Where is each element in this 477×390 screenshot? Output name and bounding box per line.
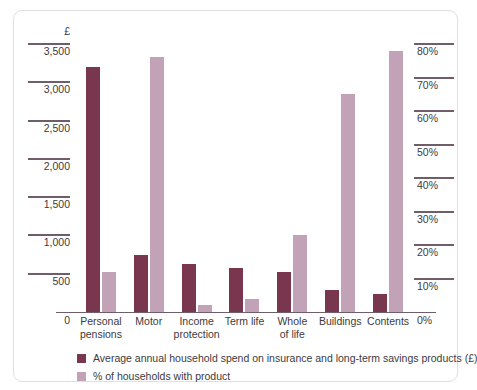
- bar-percent: [341, 94, 355, 312]
- left-axis-tick-label: 500: [28, 275, 70, 288]
- category-axis-labels: PersonalpensionsMotorIncomeprotectionTer…: [77, 315, 412, 349]
- bar-group: [173, 44, 221, 312]
- left-axis: 3,5003,0002,5002,0001,5001,000500: [28, 11, 74, 331]
- bar-spend: [86, 67, 100, 312]
- bar-spend: [182, 264, 196, 312]
- legend-item-percent: % of households with product: [77, 370, 467, 383]
- right-axis-tick-label: 60%: [417, 112, 438, 125]
- plot-area: [77, 44, 412, 312]
- left-axis-tick-label: 1,500: [28, 198, 70, 211]
- right-axis-tick-label: 10%: [417, 280, 438, 293]
- right-axis-tick-label: 80%: [417, 45, 438, 58]
- left-axis-tick-label-0: 0: [28, 314, 70, 326]
- legend-label-spend: Average annual household spend on insura…: [93, 352, 477, 365]
- bar-percent: [198, 305, 212, 312]
- bar-spend: [373, 294, 387, 312]
- right-axis-tick-label: 20%: [417, 246, 438, 259]
- legend-label-percent: % of households with product: [93, 370, 230, 383]
- right-axis-tick-label: 30%: [417, 213, 438, 226]
- chart-card: £ 3,5003,0002,5002,0001,5001,000500 0 80…: [13, 10, 458, 382]
- left-axis-tick-label: 3,000: [28, 83, 70, 96]
- legend-swatch-spend-icon: [77, 354, 86, 363]
- right-axis-tick-label: 50%: [417, 146, 438, 159]
- bar-percent: [245, 299, 259, 312]
- bar-percent: [293, 235, 307, 312]
- chart-legend: Average annual household spend on insura…: [77, 352, 467, 388]
- bar-spend: [134, 255, 148, 312]
- left-axis-tick-label: 1,000: [28, 236, 70, 249]
- bar-group: [316, 44, 364, 312]
- left-axis-tick-label: 2,500: [28, 122, 70, 135]
- right-axis-tick-label: 70%: [417, 79, 438, 92]
- category-label-line: of life: [260, 328, 324, 341]
- bar-spend: [325, 290, 339, 312]
- bar-group: [125, 44, 173, 312]
- bar-group: [364, 44, 412, 312]
- category-label-contents: Contents: [356, 315, 420, 328]
- legend-swatch-percent-icon: [77, 372, 86, 381]
- left-axis-tick-label: 2,000: [28, 160, 70, 173]
- category-label-line: protection: [165, 328, 229, 341]
- legend-item-spend: Average annual household spend on insura…: [77, 352, 467, 365]
- x-axis-baseline: [56, 312, 436, 313]
- category-label-line: pensions: [69, 328, 133, 341]
- right-axis: 80%70%60%50%40%30%20%10%: [414, 11, 474, 331]
- bar-percent: [389, 51, 403, 312]
- bar-spend: [229, 268, 243, 312]
- category-label-line: Contents: [356, 315, 420, 328]
- bar-group: [77, 44, 125, 312]
- bar-percent: [150, 57, 164, 312]
- bar-spend: [277, 272, 291, 312]
- bar-group: [221, 44, 269, 312]
- bar-group: [268, 44, 316, 312]
- left-axis-tick-label: 3,500: [28, 45, 70, 58]
- bar-percent: [102, 272, 116, 312]
- right-axis-tick-label: 40%: [417, 179, 438, 192]
